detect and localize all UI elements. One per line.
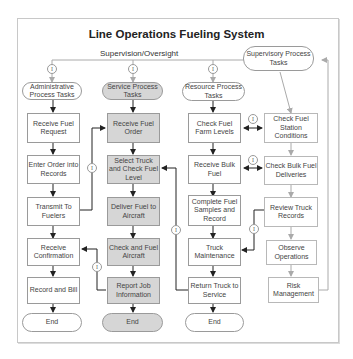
service-end: End xyxy=(102,313,163,332)
service-step-deliver-fuel: Deliver Fuel to Aircraft xyxy=(107,197,160,226)
resource-step-truck-maintenance: Truck Maintenance xyxy=(188,238,241,266)
resource-step-complete-samples: Complete Fuel Samples and Record xyxy=(188,195,241,226)
admin-step-record-and-bill: Record and Bill xyxy=(27,277,80,304)
admin-end: End xyxy=(22,313,82,332)
info-icon: I xyxy=(248,155,258,165)
info-icon: I xyxy=(249,224,259,234)
info-icon: I xyxy=(87,163,97,173)
service-step-check-and-fuel: Check and Fuel Aircraft xyxy=(107,238,160,266)
info-icon: I xyxy=(47,64,57,74)
supervisory-step-risk-management: Risk Management xyxy=(268,277,319,303)
admin-step-transmit-to-fuelers: Transmit To Fuelers xyxy=(27,197,80,226)
supervisory-process-header: Supervisory Process Tasks xyxy=(243,46,314,71)
supervisory-step-observe-operations: Observe Operations xyxy=(266,240,317,265)
admin-step-receive-confirmation: Receive Confirmation xyxy=(27,238,80,266)
admin-step-receive-fuel-request: Receive Fuel Request xyxy=(27,113,80,143)
service-step-select-truck: Select Truck and Check Fuel Level xyxy=(107,155,160,184)
info-icon: I xyxy=(248,114,258,124)
resource-step-check-fuel-farm: Check Fuel Farm Levels xyxy=(188,113,241,143)
resource-step-receive-bulk-fuel: Receive Bulk Fuel xyxy=(188,155,241,184)
service-step-report-job: Report Job Information xyxy=(107,277,160,304)
supervisory-step-check-bulk-deliveries: Check Bulk Fuel Deliveries xyxy=(264,156,318,185)
info-icon: I xyxy=(92,262,102,272)
info-icon: I xyxy=(208,64,218,74)
service-process-header: Service Process Tasks xyxy=(102,82,163,100)
admin-process-header: Administrative Process Tasks xyxy=(22,82,82,100)
supervisory-step-review-truck-records: Review Truck Records xyxy=(264,197,318,227)
info-icon: I xyxy=(171,225,181,235)
admin-step-enter-order: Enter Order into Records xyxy=(27,155,80,184)
service-step-receive-fuel-order: Receive Fuel Order xyxy=(107,113,160,143)
resource-process-header: Resource Process Tasks xyxy=(182,82,245,101)
resource-end: End xyxy=(185,313,244,332)
info-icon: I xyxy=(128,64,138,74)
supervisory-step-check-station: Check Fuel Station Conditions xyxy=(264,113,318,143)
resource-step-return-truck: Return Truck to Service xyxy=(188,277,241,304)
